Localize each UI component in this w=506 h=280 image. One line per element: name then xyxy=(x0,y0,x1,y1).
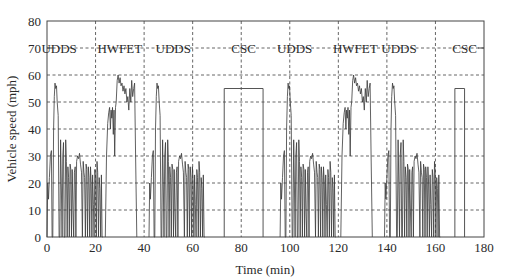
udds-cycle-trace xyxy=(280,83,336,237)
x-axis-ticks: 020406080100120140160180 xyxy=(44,240,494,255)
csc-cycle-trace xyxy=(224,89,263,238)
x-tick-label: 160 xyxy=(426,240,446,255)
y-tick-label: 20 xyxy=(28,176,41,191)
cycle-label: UDDS xyxy=(41,41,76,56)
y-tick-label: 0 xyxy=(35,230,42,245)
cycle-label: UDDS xyxy=(381,41,416,56)
cycle-label: CSC xyxy=(231,41,256,56)
x-tick-label: 100 xyxy=(280,240,300,255)
speed-profile-chart: 01020304050607080 0204060801001201401601… xyxy=(0,0,506,280)
y-tick-label: 30 xyxy=(28,149,41,164)
x-tick-label: 60 xyxy=(186,240,199,255)
y-tick-label: 50 xyxy=(28,95,41,110)
x-tick-label: 180 xyxy=(474,240,494,255)
udds-cycle-trace xyxy=(149,83,205,237)
x-tick-label: 140 xyxy=(377,240,397,255)
y-axis-label: Vehicle speed (mph) xyxy=(4,76,19,183)
y-tick-label: 80 xyxy=(28,14,41,29)
x-tick-label: 0 xyxy=(44,240,51,255)
udds-cycle-trace xyxy=(385,83,441,237)
x-tick-label: 80 xyxy=(235,240,248,255)
y-axis-ticks: 01020304050607080 xyxy=(28,14,41,245)
x-tick-label: 40 xyxy=(138,240,151,255)
csc-cycle-trace xyxy=(455,89,465,238)
y-tick-label: 10 xyxy=(28,203,41,218)
y-tick-label: 70 xyxy=(28,41,41,56)
cycle-label: HWFET xyxy=(333,41,378,56)
y-tick-label: 60 xyxy=(28,68,41,83)
x-tick-label: 120 xyxy=(329,240,349,255)
cycle-label: CSC xyxy=(452,41,477,56)
x-tick-label: 20 xyxy=(89,240,102,255)
x-axis-label: Time (min) xyxy=(235,262,294,277)
y-tick-label: 40 xyxy=(28,122,41,137)
cycle-label: UDDS xyxy=(156,41,191,56)
cycle-label: HWFET xyxy=(97,41,142,56)
udds-cycle-trace xyxy=(47,83,103,237)
cycle-label: UDDS xyxy=(277,41,312,56)
